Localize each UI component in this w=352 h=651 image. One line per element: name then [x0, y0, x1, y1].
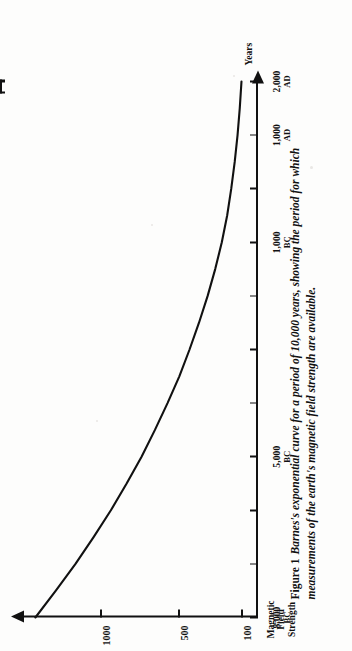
y-axis-title-line2: Field [276, 600, 286, 638]
plot-area: 8,000BC5,000BC1,000BC1,000AD2,000AD 1005… [22, 81, 258, 617]
y-axis-tick-label: 500 [179, 625, 190, 640]
x-axis-title: Years [244, 42, 254, 65]
y-axis-title-line3: Strength [287, 600, 297, 638]
y-axis-title-line1: Magnetic [266, 600, 276, 638]
x-axis-tick-label-number: 1,000 [272, 231, 282, 253]
data-period-bracket-icon [0, 79, 5, 93]
x-axis-tick-label-number: 1,000 [272, 124, 282, 146]
x-axis-tick-label-number: 5,000 [272, 445, 282, 467]
rotated-figure-container: 8,000BC5,000BC1,000BC1,000AD2,000AD 1005… [0, 0, 352, 651]
x-axis-tick-label-number: 2,000 [272, 70, 282, 92]
magnetic-field-decay-curve [22, 81, 258, 617]
y-axis-tick-label: 100 [242, 625, 253, 640]
y-axis-tick-label: 1000 [100, 625, 111, 645]
figure-caption-text: Barnes's exponential curve for a period … [289, 147, 317, 599]
y-axis-title: Magnetic Field Strength [266, 600, 297, 638]
figure-caption-label: Figure 1 [289, 558, 301, 599]
scanned-page-background: 8,000BC5,000BC1,000BC1,000AD2,000AD 1005… [0, 0, 352, 651]
figure-caption: Figure 1Barnes's exponential curve for a… [288, 79, 320, 599]
